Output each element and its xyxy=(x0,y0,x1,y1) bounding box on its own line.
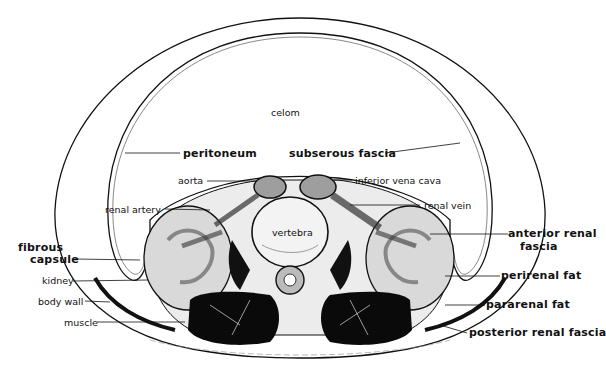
label-fibrous-capsule-2: capsule xyxy=(30,254,79,265)
label-perirenal-fat: perirenal fat xyxy=(501,270,581,281)
aorta xyxy=(254,176,286,198)
left-back-muscle xyxy=(188,292,279,345)
label-pararenal-fat: pararenal fat xyxy=(486,299,570,310)
label-anterior-renal-fascia-2: fascia xyxy=(520,241,558,252)
label-peritoneum: peritoneum xyxy=(183,148,257,159)
label-fibrous-capsule-1: fibrous xyxy=(18,242,63,253)
label-anterior-renal-fascia-1: anterior renal xyxy=(508,228,597,239)
right-back-muscle xyxy=(321,292,412,345)
label-inferior-vena-cava: inferior vena cava xyxy=(355,176,441,186)
label-subserous-fascia: subserous fascia xyxy=(289,148,396,159)
label-aorta: aorta xyxy=(178,176,203,186)
label-kidney: kidney xyxy=(42,276,74,286)
label-posterior-renal-fascia: posterior renal fascia xyxy=(469,327,606,338)
label-celom: celom xyxy=(271,108,300,118)
label-muscle: muscle xyxy=(64,318,98,328)
label-renal-artery: renal artery xyxy=(105,205,161,215)
label-body-wall: body wall xyxy=(38,297,83,307)
label-renal-vein: renal vein xyxy=(424,201,471,211)
label-vertebra: vertebra xyxy=(272,228,313,238)
inferior-vena-cava xyxy=(300,175,336,199)
